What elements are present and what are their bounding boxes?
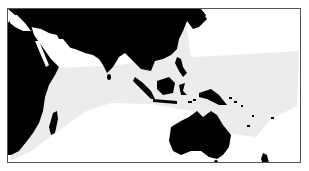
map-frame bbox=[7, 8, 301, 163]
landmass-tasmania bbox=[214, 160, 218, 163]
landmass-sri-lanka bbox=[107, 74, 111, 80]
landmass-new-zealand bbox=[261, 153, 269, 163]
distribution-map bbox=[8, 9, 301, 163]
